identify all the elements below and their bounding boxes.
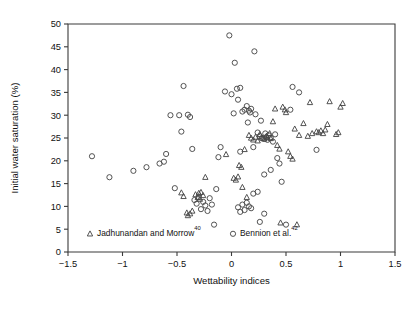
data-point-triangle (244, 194, 249, 199)
data-point-triangle (301, 121, 306, 126)
x-tick-label: 0.5 (280, 259, 293, 269)
legend-superscript-40: 40 (194, 225, 200, 231)
data-point-triangle (190, 208, 195, 213)
data-point-circle (209, 202, 214, 207)
data-point-triangle (327, 99, 332, 104)
x-axis: −1.5−1−0.500.511.5 (59, 252, 402, 269)
data-point-triangle (223, 152, 228, 157)
data-point-circle (262, 172, 267, 177)
y-tick-label: 10 (51, 202, 61, 212)
data-point-circle (296, 90, 301, 95)
data-point-triangle (340, 100, 345, 105)
x-tick-label: 1 (338, 259, 343, 269)
data-point-triangle (278, 220, 283, 225)
data-point-circle (131, 168, 136, 173)
data-point-circle (262, 211, 267, 216)
data-point-circle (314, 147, 319, 152)
data-point-circle (231, 111, 236, 116)
data-point-triangle (296, 132, 301, 137)
data-point-circle (275, 155, 280, 160)
data-point-triangle (240, 184, 245, 189)
data-point-circle (277, 161, 282, 166)
y-tick-label: 45 (51, 42, 61, 52)
data-point-circle (218, 145, 223, 150)
data-point-circle (235, 205, 240, 210)
data-point-circle (216, 155, 221, 160)
data-point-circle (190, 146, 195, 151)
y-tick-label: 50 (51, 19, 61, 29)
data-point-circle (268, 167, 273, 172)
data-point-triangle (336, 130, 341, 135)
legend-label-jadhunandan: Jadhunandan and Morrow40 (97, 225, 201, 238)
data-point-circle (273, 132, 278, 137)
data-point-circle (214, 186, 219, 191)
data-point-circle (288, 107, 293, 112)
y-tick-label: 25 (51, 133, 61, 143)
data-point-circle (238, 85, 243, 90)
data-point-circle (205, 208, 210, 213)
data-point-circle (257, 219, 262, 224)
y-tick-label: 0 (56, 247, 61, 257)
data-point-circle (181, 83, 186, 88)
chart-canvas: 05101520253035404550−1.5−1−0.500.511.5We… (0, 0, 418, 309)
data-point-circle (144, 165, 149, 170)
data-point-circle (168, 113, 173, 118)
data-point-circle (229, 92, 234, 97)
scatter-chart-figure: 05101520253035404550−1.5−1−0.500.511.5We… (0, 0, 418, 309)
data-point-circle (258, 118, 263, 123)
data-point-circle (245, 120, 250, 125)
data-point-triangle (203, 174, 208, 179)
legend-label-bennion: Bennion et al.42 (240, 225, 298, 238)
data-point-circle (107, 175, 112, 180)
y-tick-label: 40 (51, 65, 61, 75)
data-point-circle (211, 222, 216, 227)
data-point-circle (253, 112, 258, 117)
data-point-circle (177, 113, 182, 118)
data-point-triangle (87, 231, 92, 236)
x-tick-label: 0 (229, 259, 234, 269)
data-point-circle (251, 191, 256, 196)
data-point-triangle (270, 119, 275, 124)
data-point-circle (198, 207, 203, 212)
data-point-triangle (325, 121, 330, 126)
x-tick-label: −1 (117, 259, 128, 269)
data-point-circle (283, 222, 288, 227)
legend-superscript-42: 42 (291, 225, 297, 231)
data-point-triangle (181, 193, 186, 198)
data-point-triangle (235, 174, 240, 179)
data-point-circle (222, 89, 227, 94)
chart-legend: Jadhunandan and Morrow40Bennion et al.42 (87, 225, 297, 238)
data-point-triangle (277, 146, 282, 151)
data-point-triangle (323, 127, 328, 132)
data-point-circle (227, 33, 232, 38)
data-point-circle (235, 97, 240, 102)
data-point-triangle (272, 106, 277, 111)
x-tick-label: 1.5 (389, 259, 402, 269)
data-point-circle (234, 86, 239, 91)
x-tick-label: −1.5 (59, 259, 77, 269)
y-tick-label: 20 (51, 156, 61, 166)
data-point-circle (251, 145, 256, 150)
y-tick-label: 35 (51, 88, 61, 98)
x-axis-title: Wettability indices (193, 275, 270, 286)
data-point-triangle (292, 126, 297, 131)
data-point-circle (179, 129, 184, 134)
data-point-triangle (307, 100, 312, 105)
data-point-circle (252, 49, 257, 54)
data-point-circle (161, 159, 166, 164)
data-point-circle (89, 154, 94, 159)
y-tick-label: 30 (51, 111, 61, 121)
y-tick-label: 15 (51, 179, 61, 189)
plot-frame (68, 24, 395, 252)
data-point-circle (232, 60, 237, 65)
y-axis-title: Initial water saturation (%) (9, 83, 20, 194)
data-point-circle (290, 84, 295, 89)
y-tick-label: 5 (56, 225, 61, 235)
data-point-circle (207, 196, 212, 201)
y-axis: 05101520253035404550 (51, 19, 68, 257)
data-point-circle (279, 179, 284, 184)
data-point-circle (172, 186, 177, 191)
data-point-circle (164, 151, 169, 156)
data-point-circle (230, 231, 235, 236)
x-tick-label: −0.5 (168, 259, 186, 269)
